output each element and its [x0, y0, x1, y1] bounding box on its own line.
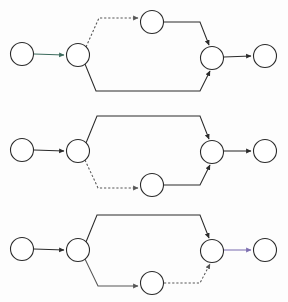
node-merge[interactable]	[201, 141, 224, 164]
edge-split-to-top-path	[86, 116, 209, 143]
edge-bottom-branch-to-merge	[164, 264, 210, 283]
node-bottom-branch[interactable]	[141, 272, 164, 295]
edge-split-to-bottom-branch	[85, 259, 138, 286]
nodes-row-row-2	[11, 139, 277, 197]
edge-split-to-bottom-path	[85, 64, 210, 91]
node-source[interactable]	[11, 238, 34, 261]
node-merge[interactable]	[201, 47, 224, 70]
node-sink[interactable]	[254, 45, 277, 68]
graph-canvas	[0, 0, 288, 302]
node-bottom-branch[interactable]	[141, 174, 164, 197]
node-sink[interactable]	[254, 239, 277, 262]
edge-split-to-top-path	[86, 215, 209, 242]
nodes-row-row-3	[11, 238, 277, 295]
node-source[interactable]	[11, 139, 34, 162]
nodes-row-row-1	[11, 11, 277, 70]
node-split[interactable]	[67, 44, 90, 67]
edge-bottom-branch-to-merge	[164, 165, 210, 185]
edge-top-branch-to-merge	[164, 22, 209, 45]
diagram-root	[0, 0, 288, 302]
edge-source-to-split	[34, 54, 64, 55]
node-sink[interactable]	[254, 140, 277, 163]
edge-source-to-split	[34, 150, 64, 151]
edge-split-to-top-branch	[86, 18, 138, 47]
nodes-layer	[11, 11, 277, 295]
node-split[interactable]	[67, 140, 90, 163]
node-split[interactable]	[67, 239, 90, 262]
node-source[interactable]	[11, 43, 34, 66]
node-top-branch[interactable]	[141, 11, 164, 34]
edge-merge-to-sink	[224, 56, 251, 57]
edge-source-to-split	[34, 249, 64, 250]
node-merge[interactable]	[201, 240, 224, 263]
edge-split-to-bottom-branch	[85, 160, 138, 188]
